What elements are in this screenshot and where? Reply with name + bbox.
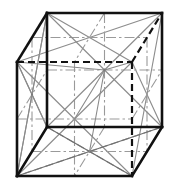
left-face-center-dot (31, 93, 33, 95)
figure-root (0, 0, 172, 191)
cube-wireframe-diagram (0, 0, 172, 191)
front-face-center-dot (103, 69, 105, 71)
